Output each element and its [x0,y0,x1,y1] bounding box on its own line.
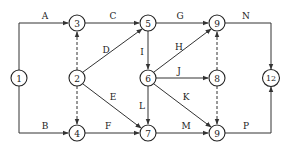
edge-label-G: G [176,11,183,21]
node-label: 9 [214,129,220,139]
node-label: 12 [266,74,276,83]
edge-label-L: L [139,101,145,111]
edge-label-A: A [41,11,49,21]
node-label: 2 [74,74,80,84]
node-label: 9 [214,19,220,29]
edge-label-J: J [176,66,181,76]
node-1: 1 [11,70,27,86]
edge-D [83,29,142,72]
node-7: 7 [140,125,156,141]
node-8: 8 [209,70,225,86]
node-label: 8 [214,74,220,84]
edge-E [83,84,141,128]
node-12: 12 [263,70,280,87]
edge-N [225,23,271,69]
edge-label-N: N [242,11,250,21]
edge-label-B: B [42,121,49,131]
edge-label-F: F [105,121,111,131]
edge-A [19,23,68,70]
node-4: 4 [69,125,85,141]
node-9-top: 9 [209,15,225,31]
network-diagram: A B C D E F G H I J K L M N P 1 2 3 4 5 … [0,0,287,156]
edge-label-K: K [183,92,190,102]
node-2: 2 [69,70,85,86]
edge-label-H: H [175,42,183,52]
edge-label-C: C [110,11,117,21]
edge-label-E: E [110,92,117,102]
node-5: 5 [140,15,156,31]
node-label: 1 [16,74,22,84]
node-9-bottom: 9 [209,125,225,141]
node-3: 3 [69,15,85,31]
diagram-canvas: A B C D E F G H I J K L M N P 1 2 3 4 5 … [0,0,287,156]
edge-label-D: D [102,45,109,55]
edge-label-I: I [140,47,144,57]
edge-label-M: M [181,121,190,131]
node-label: 6 [145,74,151,84]
node-label: 4 [74,129,80,139]
node-label: 5 [145,19,151,29]
node-label: 3 [74,19,80,29]
node-label: 7 [145,129,151,139]
edge-label-P: P [243,121,249,131]
node-6: 6 [140,70,156,86]
